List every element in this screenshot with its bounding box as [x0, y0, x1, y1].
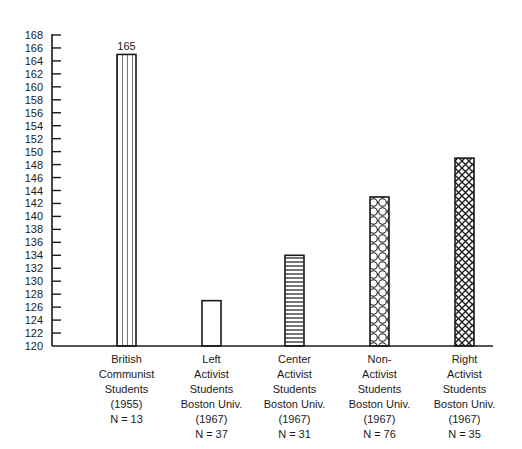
bars: 165	[117, 40, 474, 346]
y-tick-label: 128	[25, 288, 43, 300]
category-label-line: Activist	[415, 367, 515, 382]
y-tick-label: 150	[25, 146, 43, 158]
category-label-line: N = 35	[415, 427, 515, 442]
y-tick-label: 146	[25, 172, 43, 184]
y-axis: 1201221241261281301321341361381401421441…	[25, 29, 61, 352]
category-label-line: Right	[415, 352, 515, 367]
y-tick-label: 130	[25, 275, 43, 287]
y-tick-label: 166	[25, 42, 43, 54]
y-tick-label: 160	[25, 81, 43, 93]
y-tick-label: 152	[25, 133, 43, 145]
category-label-line: (1967)	[415, 412, 515, 427]
bar-3	[285, 255, 304, 346]
category-label-line: Students	[415, 382, 515, 397]
bar-1	[117, 54, 136, 346]
bar-5	[455, 158, 474, 346]
bar-value-label: 165	[117, 40, 135, 52]
category-label-line: Boston Univ.	[415, 397, 515, 412]
y-tick-label: 144	[25, 185, 43, 197]
y-tick-label: 156	[25, 107, 43, 119]
y-tick-label: 132	[25, 262, 43, 274]
y-tick-label: 134	[25, 249, 43, 261]
bar-2	[202, 301, 221, 346]
y-tick-label: 154	[25, 120, 43, 132]
y-tick-label: 168	[25, 29, 43, 41]
y-tick-label: 120	[25, 340, 43, 352]
category-label: RightActivistStudentsBoston Univ.(1967)N…	[415, 352, 515, 442]
y-tick-label: 158	[25, 94, 43, 106]
y-tick-label: 148	[25, 159, 43, 171]
y-tick-label: 136	[25, 236, 43, 248]
y-tick-label: 124	[25, 314, 43, 326]
y-tick-label: 164	[25, 55, 43, 67]
bar-4	[370, 197, 389, 346]
y-tick-label: 122	[25, 327, 43, 339]
y-tick-label: 138	[25, 223, 43, 235]
y-tick-label: 126	[25, 301, 43, 313]
y-tick-label: 162	[25, 68, 43, 80]
y-tick-label: 142	[25, 197, 43, 209]
y-tick-label: 140	[25, 210, 43, 222]
